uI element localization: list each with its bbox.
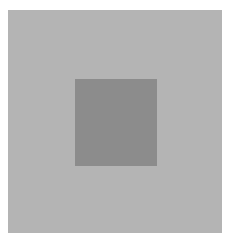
image-canvas <box>0 0 229 243</box>
inner-dark-square <box>75 79 157 166</box>
